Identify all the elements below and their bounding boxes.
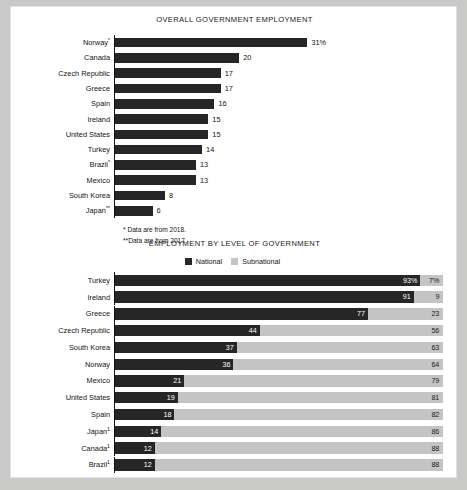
bar-segment-subnational: 86 bbox=[161, 426, 443, 437]
category-label: Japan1 bbox=[19, 427, 114, 436]
bar-value-label: 15 bbox=[212, 115, 220, 124]
bar-track: 919 bbox=[114, 290, 457, 305]
bar-segment bbox=[115, 68, 220, 78]
bar-segment bbox=[115, 84, 220, 94]
category-label: South Korea bbox=[19, 343, 114, 352]
bar-row: Brazil11288 bbox=[19, 458, 457, 473]
bar-segment-subnational: 79 bbox=[184, 375, 443, 386]
bar-row: Mexico13 bbox=[19, 174, 457, 187]
bar-value-label: 8 bbox=[169, 191, 173, 200]
bar-track: 93%7% bbox=[114, 273, 457, 288]
category-label: Spain bbox=[19, 99, 114, 108]
segment-value-subnational: 88 bbox=[431, 461, 439, 468]
bar-value-label: 14 bbox=[206, 145, 214, 154]
bar-segment-subnational: 88 bbox=[155, 442, 444, 453]
value-axis bbox=[114, 35, 115, 50]
bar-track: 7723 bbox=[114, 307, 457, 322]
bar-segment-national: 18 bbox=[115, 409, 174, 420]
stacked-bar: 7723 bbox=[115, 308, 443, 319]
stacked-bar: 93%7% bbox=[115, 275, 443, 286]
bar-track: 1486 bbox=[114, 424, 457, 439]
stacked-bar: 1288 bbox=[115, 442, 443, 453]
category-label: Norway* bbox=[19, 38, 114, 47]
bar-track: 1288 bbox=[114, 441, 457, 456]
bar-row: Greece7723 bbox=[19, 307, 457, 322]
category-label: Czech Republic bbox=[19, 69, 114, 78]
bar-row: Canada20 bbox=[19, 51, 457, 64]
segment-value-subnational: 23 bbox=[431, 310, 439, 317]
bar-row: Greece17 bbox=[19, 82, 457, 95]
bar-rows-overall: Norway*31%Canada20Czech Republic17Greece… bbox=[11, 36, 457, 217]
segment-value-national: 18 bbox=[163, 411, 171, 418]
bar-segment-national: 93% bbox=[115, 275, 420, 286]
stacked-bar: 1486 bbox=[115, 426, 443, 437]
stacked-bar: 1981 bbox=[115, 392, 443, 403]
segment-value-subnational: 56 bbox=[431, 327, 439, 334]
segment-value-subnational: 7% bbox=[429, 277, 439, 284]
legend-item-subnational: Subnational bbox=[231, 257, 280, 266]
segment-value-national: 14 bbox=[150, 428, 158, 435]
segment-value-national: 12 bbox=[144, 445, 152, 452]
bar-row: Norway3664 bbox=[19, 357, 457, 372]
segment-value-subnational: 63 bbox=[431, 344, 439, 351]
segment-value-subnational: 81 bbox=[431, 394, 439, 401]
segment-value-subnational: 9 bbox=[435, 293, 439, 300]
value-axis bbox=[114, 203, 115, 218]
bar-row: Turkey14 bbox=[19, 143, 457, 156]
stacked-bar: 3664 bbox=[115, 359, 443, 370]
bar-segment bbox=[115, 160, 196, 170]
category-label: Japan** bbox=[19, 206, 114, 215]
category-label: Greece bbox=[19, 84, 114, 93]
bar-track: 17 bbox=[114, 82, 457, 95]
value-axis bbox=[114, 96, 115, 111]
stacked-bar: 919 bbox=[115, 291, 443, 302]
bar-segment-subnational: 88 bbox=[155, 459, 444, 470]
stacked-bar: 3763 bbox=[115, 342, 443, 353]
bar-row: United States1981 bbox=[19, 390, 457, 405]
legend-item-national: National bbox=[185, 257, 222, 266]
bar-row: Mexico2179 bbox=[19, 374, 457, 389]
category-label: Czech Republic bbox=[19, 326, 114, 335]
bar-row: Czech Republic17 bbox=[19, 67, 457, 80]
bar-track: 2179 bbox=[114, 374, 457, 389]
bar-segment-subnational: 7% bbox=[420, 275, 443, 286]
bar-segment bbox=[115, 191, 165, 201]
bar-segment-national: 19 bbox=[115, 392, 177, 403]
category-label: Norway bbox=[19, 360, 114, 369]
segment-value-subnational: 64 bbox=[431, 361, 439, 368]
value-axis bbox=[114, 127, 115, 142]
value-axis bbox=[114, 188, 115, 203]
category-label: United States bbox=[19, 130, 114, 139]
segment-value-national: 77 bbox=[357, 310, 365, 317]
segment-value-national: 91 bbox=[403, 293, 411, 300]
bar-segment-national: 12 bbox=[115, 442, 154, 453]
value-axis bbox=[114, 81, 115, 96]
bar-segment-national: 44 bbox=[115, 325, 259, 336]
bar-value-label: 17 bbox=[225, 84, 233, 93]
bar-segment bbox=[115, 99, 214, 109]
bar-segment bbox=[115, 114, 208, 124]
bar-row: Ireland15 bbox=[19, 112, 457, 125]
segment-value-national: 21 bbox=[173, 377, 181, 384]
bar-track: 13 bbox=[114, 158, 457, 171]
bar-value-label: 20 bbox=[243, 53, 251, 62]
chart-overall-government-employment: OVERALL GOVERNMENT EMPLOYMENT Norway*31%… bbox=[11, 15, 457, 247]
segment-value-national: 37 bbox=[226, 344, 234, 351]
bar-row: Spain1882 bbox=[19, 407, 457, 422]
stacked-bar: 4456 bbox=[115, 325, 443, 336]
bar-segment-subnational: 63 bbox=[237, 342, 444, 353]
category-label: United States bbox=[19, 393, 114, 402]
bar-track: 17 bbox=[114, 67, 457, 80]
bar-track: 13 bbox=[114, 174, 457, 187]
bar-segment bbox=[115, 130, 208, 140]
legend-label-national: National bbox=[196, 257, 222, 266]
footnote: * Data are from 2018. bbox=[123, 225, 457, 236]
value-axis bbox=[114, 111, 115, 126]
segment-value-national: 19 bbox=[167, 394, 175, 401]
bar-segment-subnational: 9 bbox=[414, 291, 444, 302]
bar-track: 20 bbox=[114, 51, 457, 64]
bar-row: Spain16 bbox=[19, 97, 457, 110]
bar-segment-national: 12 bbox=[115, 459, 154, 470]
bar-segment-subnational: 56 bbox=[260, 325, 444, 336]
bar-track: 1981 bbox=[114, 390, 457, 405]
